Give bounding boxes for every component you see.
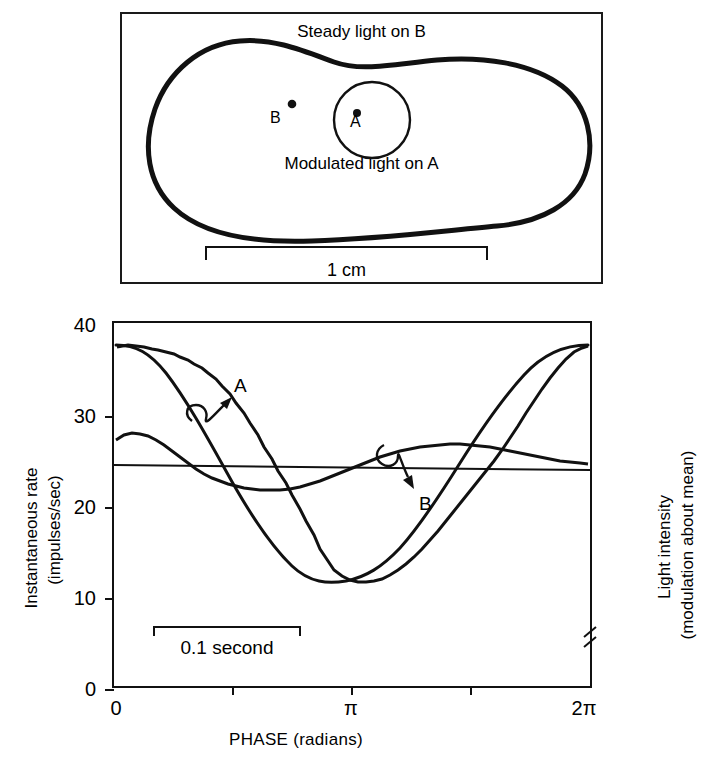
time-scale-bar-label: 0.1 second	[143, 637, 311, 659]
x-tick-half-pi	[232, 686, 234, 695]
bean-cell-outline	[148, 41, 589, 242]
curve-b-histogram	[116, 433, 588, 490]
x-label-2pi: 2π	[572, 697, 597, 720]
y-label-10: 10	[74, 587, 96, 610]
point-marker-b	[288, 100, 297, 109]
left-axis-title-line1: Instantaneous rate	[22, 388, 42, 688]
phase-response-chart: Instantaneous rate (impulses/sec) Light …	[0, 300, 703, 760]
y-tick-10	[105, 598, 114, 600]
scale-bar-1cm-label: 1 cm	[205, 260, 488, 281]
curve-b-label: B	[419, 493, 432, 515]
x-label-pi: π	[344, 697, 358, 720]
curve-a-leader-arrow	[187, 397, 232, 421]
curve-a-label: A	[234, 375, 247, 397]
y-tick-30	[105, 416, 114, 418]
scale-bar-1cm	[205, 246, 488, 260]
y-label-40: 40	[74, 314, 96, 337]
point-a-label: A	[350, 113, 361, 131]
x-tick-pi	[351, 686, 353, 695]
time-scale-bar	[153, 626, 301, 636]
y-label-0: 0	[85, 678, 96, 701]
x-axis-title: PHASE (radians)	[0, 730, 592, 750]
left-axis-title-line2: (impulses/sec)	[45, 380, 65, 680]
x-label-0: 0	[110, 697, 121, 720]
x-tick-three-half-pi	[470, 686, 472, 695]
right-axis-title-line1: Light intensity	[655, 402, 675, 692]
right-axis-title-line2: (modulation about mean)	[678, 390, 698, 700]
point-b-label: B	[270, 109, 281, 127]
y-tick-0	[105, 689, 114, 691]
cell-diagram-panel: Steady light on B Modulated light on A B…	[120, 12, 603, 284]
y-label-20: 20	[74, 496, 96, 519]
receptive-field-circle-a	[334, 82, 410, 158]
y-tick-20	[105, 507, 114, 509]
y-label-30: 30	[74, 405, 96, 428]
